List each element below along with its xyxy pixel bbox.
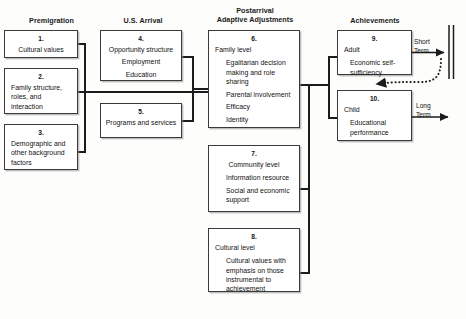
- connector-box3-stub: [78, 151, 86, 153]
- connector-postarrival-to-achievements: [308, 84, 330, 86]
- node-box-10-item-0: Educational performance: [338, 118, 411, 137]
- node-box-2-number: 2.: [5, 72, 77, 81]
- node-box-3-number: 3.: [5, 128, 77, 137]
- connector-box4-stub: [182, 56, 194, 58]
- node-box-10-number: 10.: [338, 94, 411, 103]
- node-box-2[interactable]: 2. Family structure, roles, and interact…: [4, 68, 78, 114]
- node-box-2-title: Family structure, roles, and interaction: [5, 83, 77, 111]
- label-long-term-line2: Term: [416, 111, 446, 120]
- node-box-7[interactable]: 7. Community level Information resource …: [208, 145, 300, 212]
- node-box-4[interactable]: 4. Opportunity structure Employment Educ…: [100, 30, 182, 81]
- node-box-1[interactable]: 1. Cultural values: [4, 30, 78, 58]
- label-short-term: Short Term: [414, 38, 444, 55]
- node-box-7-title: Community level: [209, 160, 299, 169]
- node-box-5[interactable]: 5. Programs and services: [100, 103, 182, 138]
- node-box-5-number: 5.: [101, 107, 181, 116]
- node-box-6-item-2: Efficacy: [209, 102, 299, 111]
- node-box-5-title: Programs and services: [101, 118, 181, 127]
- connector-achievements-trunk: [328, 56, 330, 118]
- column-header-achievements: Achievements: [332, 16, 418, 25]
- node-box-3[interactable]: 3. Demographic and other background fact…: [4, 124, 78, 170]
- connector-box5-stub: [182, 120, 194, 122]
- node-box-6[interactable]: 6. Family level Egalitarian decision mak…: [208, 30, 300, 128]
- node-box-6-item-1: Parental involvement: [209, 90, 299, 99]
- node-box-7-item-0: Information resource: [209, 173, 299, 182]
- node-box-8-title: Cultural level: [209, 243, 299, 252]
- node-box-7-number: 7.: [209, 149, 299, 158]
- node-box-8-number: 8.: [209, 232, 299, 241]
- node-box-3-title: Demographic and other background factors: [5, 139, 77, 167]
- label-short-term-line2: Term: [414, 47, 444, 56]
- label-short-term-line1: Short: [414, 38, 444, 47]
- node-box-9-number: 9.: [338, 34, 411, 43]
- column-header-postarrival-line1: Postarrival: [205, 6, 305, 15]
- node-box-8-item-0: Cultural values with emphasis on those i…: [209, 256, 299, 293]
- node-box-1-number: 1.: [5, 34, 77, 43]
- node-box-10[interactable]: 10. Child Educational performance: [337, 90, 412, 141]
- connector-box1-stub: [78, 43, 86, 45]
- node-box-6-item-3: Identity: [209, 115, 299, 124]
- column-header-premigration: Premigration: [4, 16, 99, 25]
- label-long-term: Long Term: [416, 102, 446, 119]
- connector-premigration-to-postarrival: [84, 91, 209, 93]
- connector-box8-stub: [300, 272, 310, 274]
- label-long-term-line1: Long: [416, 102, 446, 111]
- node-box-9-title: Adult: [338, 45, 411, 54]
- node-box-6-number: 6.: [209, 34, 299, 43]
- connector-premigration-trunk: [84, 43, 86, 152]
- node-box-4-number: 4.: [101, 34, 181, 43]
- connector-postarrival-trunk: [308, 84, 310, 273]
- node-box-6-title: Family level: [209, 45, 299, 54]
- node-box-7-item-1: Social and economic support: [209, 186, 299, 205]
- node-box-1-title: Cultural values: [5, 45, 77, 54]
- node-box-6-item-0: Egalitarian decision making and role sha…: [209, 58, 299, 86]
- node-box-4-item-1: Education: [101, 70, 181, 80]
- node-box-9-item-0: Economic self-sufficiency: [338, 58, 411, 77]
- diagram-canvas: Premigration U.S. Arrival Postarrival Ad…: [0, 0, 466, 319]
- node-box-10-title: Child: [338, 105, 411, 114]
- node-box-9[interactable]: 9. Adult Economic self-sufficiency: [337, 30, 412, 75]
- column-header-postarrival: Postarrival Adaptive Adjustments: [205, 6, 305, 24]
- column-header-us-arrival: U.S. Arrival: [98, 16, 188, 25]
- node-box-4-item-0: Employment: [101, 57, 181, 67]
- connector-box7-stub: [300, 188, 310, 190]
- node-box-8[interactable]: 8. Cultural level Cultural values with e…: [208, 228, 300, 292]
- column-header-postarrival-line2: Adaptive Adjustments: [205, 15, 305, 24]
- node-box-4-title: Opportunity structure: [101, 45, 181, 54]
